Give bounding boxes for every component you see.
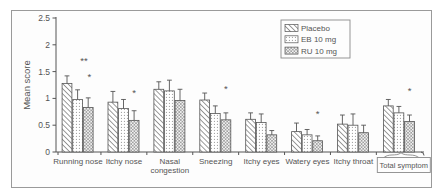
bar-eb-10-mg-itchy-throat <box>348 125 358 152</box>
bar-placebo-sneezing <box>200 100 210 152</box>
bar-ru-10-mg-total-symptom <box>405 121 415 152</box>
x-category-label: Itchy throat <box>334 157 374 166</box>
x-category-label: Nasal <box>160 157 181 166</box>
significance-asterisk: * <box>87 71 91 82</box>
bar-placebo-nasal-congestion <box>154 89 164 152</box>
bar-ru-10-mg-running-nose <box>83 108 93 152</box>
bar-ru-10-mg-sneezing <box>221 120 231 152</box>
significance-asterisk: * <box>132 87 136 98</box>
bar-eb-10-mg-watery-eyes <box>302 135 312 152</box>
bar-eb-10-mg-itchy-nose <box>119 109 129 152</box>
bar-ru-10-mg-watery-eyes <box>313 141 323 152</box>
x-category-label: Running nose <box>53 157 103 166</box>
bar-placebo-itchy-nose <box>108 102 118 152</box>
bar-eb-10-mg-total-symptom <box>394 113 404 152</box>
bar-placebo-total-symptom <box>383 106 393 152</box>
bar-placebo-running-nose <box>62 83 72 152</box>
x-axis-end-hook <box>421 152 424 156</box>
x-category-label: Watery eyes <box>285 157 329 166</box>
legend-label: RU 10 mg <box>301 47 337 56</box>
significance-asterisk: * <box>316 108 320 119</box>
y-tick-label: 0.5 <box>38 120 50 130</box>
bar-eb-10-mg-running-nose <box>73 99 83 152</box>
bar-eb-10-mg-itchy-eyes <box>256 123 266 152</box>
x-category-label-boxed: Total symptom <box>380 161 428 170</box>
legend-label: Placebo <box>301 24 330 33</box>
legend-swatch-placebo <box>285 25 298 32</box>
y-tick-label: 2 <box>45 40 50 50</box>
bar-placebo-watery-eyes <box>292 132 302 152</box>
x-category-label: Sneezing <box>199 157 232 166</box>
significance-asterisk: ** <box>80 55 88 66</box>
y-tick-label: 1 <box>45 93 50 103</box>
bar-ru-10-mg-itchy-throat <box>359 133 369 152</box>
legend-swatch-eb-10-mg <box>285 36 298 43</box>
y-axis-title: Mean score <box>21 60 32 110</box>
bar-ru-10-mg-nasal-congestion <box>175 101 185 152</box>
significance-asterisk: * <box>408 85 412 96</box>
bar-ru-10-mg-itchy-eyes <box>267 135 277 152</box>
x-category-label: Itchy eyes <box>244 157 280 166</box>
significance-asterisk: * <box>224 83 228 94</box>
legend-swatch-ru-10-mg <box>285 47 298 54</box>
figure-canvas: 00.511.522.5Mean score*******Running nos… <box>0 0 439 196</box>
bar-eb-10-mg-nasal-congestion <box>165 91 175 152</box>
bar-placebo-itchy-eyes <box>246 119 256 152</box>
y-tick-label: 0 <box>45 147 50 157</box>
bar-placebo-itchy-throat <box>338 124 348 152</box>
x-category-label: congestion <box>150 166 189 175</box>
y-tick-label: 2.5 <box>38 13 50 23</box>
bar-eb-10-mg-sneezing <box>210 113 220 152</box>
bar-ru-10-mg-itchy-nose <box>129 120 139 152</box>
legend-label: EB 10 mg <box>301 35 336 44</box>
y-tick-label: 1.5 <box>38 67 50 77</box>
x-category-label: Itchy nose <box>106 157 143 166</box>
symptom-mean-score-bar-chart: 00.511.522.5Mean score*******Running nos… <box>0 0 439 196</box>
